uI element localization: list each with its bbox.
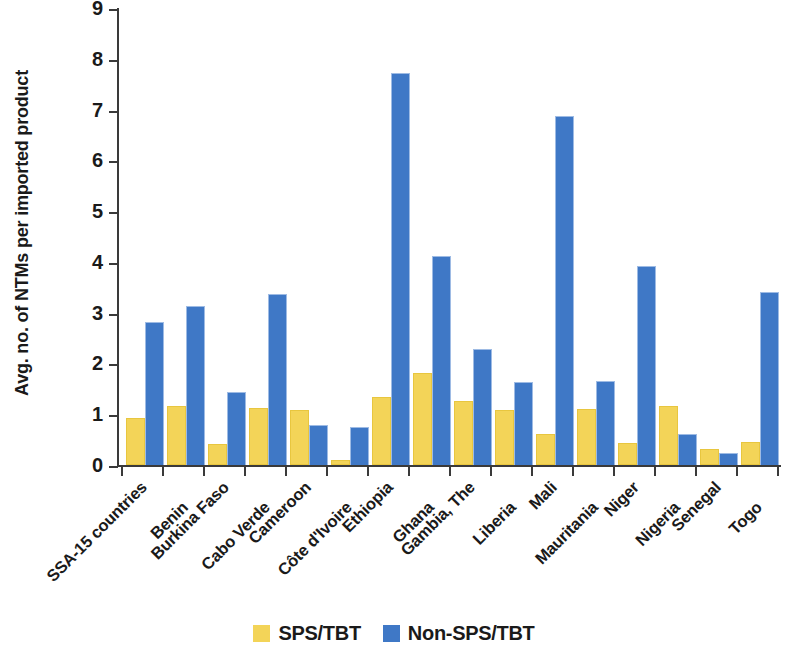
legend-swatch-icon: [253, 625, 270, 642]
y-tick: 2: [109, 364, 118, 366]
plot-area: 9876543210: [117, 8, 781, 467]
x-axis-category-labels: SSA-15 countriesBeninBurkina FasoCabo Ve…: [0, 470, 788, 615]
bar-sps-7: [413, 373, 432, 465]
bar-sps-8: [454, 401, 473, 465]
bar-nonsps-15: [760, 292, 779, 465]
bar-sps-12: [618, 443, 637, 465]
bar-sps-0: [126, 418, 145, 465]
y-tick: 5: [109, 212, 118, 214]
bar-nonsps-2: [227, 392, 246, 465]
y-tick: 8: [109, 60, 118, 62]
bars-layer: [119, 8, 781, 465]
legend-item-nonsps[interactable]: Non-SPS/TBT: [383, 622, 535, 645]
legend-item-sps[interactable]: SPS/TBT: [253, 622, 360, 645]
bar-sps-13: [659, 406, 678, 465]
y-tick: 9: [109, 9, 118, 11]
bar-nonsps-5: [350, 427, 369, 465]
bar-sps-4: [290, 410, 309, 465]
y-tick-label: 1: [92, 404, 103, 424]
bar-nonsps-13: [678, 434, 697, 465]
y-tick: 4: [109, 263, 118, 265]
y-axis-title: Avg. no. of NTMs per imported product: [2, 0, 42, 466]
y-tick-label: 7: [92, 100, 103, 120]
y-tick: 1: [109, 415, 118, 417]
bar-sps-6: [372, 397, 391, 465]
bar-sps-1: [167, 406, 186, 465]
bar-sps-10: [536, 434, 555, 465]
y-tick: 6: [109, 161, 118, 163]
legend-swatch-icon: [383, 625, 400, 642]
y-tick-label: 2: [92, 353, 103, 373]
chart-legend: SPS/TBTNon-SPS/TBT: [0, 622, 788, 645]
bar-chart: Avg. no. of NTMs per imported product 98…: [0, 0, 788, 655]
bar-nonsps-1: [186, 306, 205, 465]
bar-sps-5: [331, 460, 350, 465]
bar-nonsps-10: [555, 116, 574, 465]
y-tick-label: 6: [92, 150, 103, 170]
bar-sps-14: [700, 449, 719, 465]
bar-nonsps-4: [309, 425, 328, 465]
bar-nonsps-9: [514, 382, 533, 465]
legend-label: SPS/TBT: [278, 622, 360, 645]
bar-nonsps-7: [432, 256, 451, 465]
bar-nonsps-3: [268, 294, 287, 465]
bar-nonsps-12: [637, 266, 656, 465]
bar-sps-3: [249, 408, 268, 465]
y-tick-label: 3: [92, 303, 103, 323]
y-tick: 7: [109, 111, 118, 113]
y-tick-label: 8: [92, 49, 103, 69]
y-tick: 3: [109, 314, 118, 316]
bar-sps-15: [741, 442, 760, 465]
bar-nonsps-6: [391, 73, 410, 465]
bar-sps-2: [208, 444, 227, 465]
bar-nonsps-11: [596, 381, 615, 465]
bar-sps-11: [577, 409, 596, 465]
bar-sps-9: [495, 410, 514, 465]
bar-nonsps-0: [145, 322, 164, 465]
y-tick-label: 9: [92, 0, 103, 18]
y-tick-label: 4: [92, 252, 103, 272]
y-tick: 0: [109, 466, 118, 468]
legend-label: Non-SPS/TBT: [408, 622, 535, 645]
bar-nonsps-14: [719, 453, 738, 465]
y-tick-label: 5: [92, 201, 103, 221]
bar-nonsps-8: [473, 349, 492, 465]
